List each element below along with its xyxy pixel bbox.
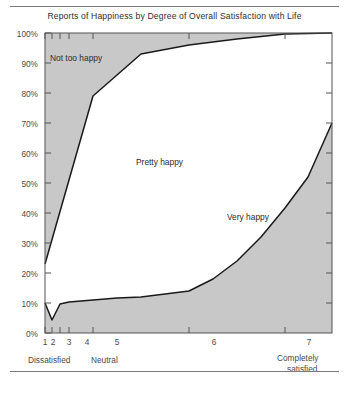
- bottom-divider-rule: [10, 371, 339, 372]
- band-label-not-too-happy: Not too happy: [50, 53, 102, 63]
- x-caption-satisfied: satisfied: [287, 364, 317, 374]
- y-tick-label-40: 40%: [4, 209, 38, 219]
- area-very-happy: [45, 123, 332, 333]
- x-caption-completely: Completely: [277, 353, 319, 363]
- y-tick-label-80: 80%: [4, 89, 38, 99]
- y-tick-label-30: 30%: [4, 239, 38, 249]
- x-tick-label-4: 4: [77, 337, 97, 347]
- y-tick-label-100: 100%: [4, 29, 38, 39]
- y-tick-label-50: 50%: [4, 179, 38, 189]
- y-tick-label-0: 0%: [4, 329, 38, 339]
- x-caption-neutral: Neutral: [91, 355, 118, 365]
- chart-figure: Reports of Happiness by Degree of Overal…: [0, 0, 349, 394]
- y-tick-label-90: 90%: [4, 59, 38, 69]
- y-tick-label-70: 70%: [4, 119, 38, 129]
- x-tick-label-7: 7: [299, 337, 319, 347]
- band-label-very-happy: Very happy: [227, 212, 269, 222]
- x-tick-label-5: 5: [107, 337, 127, 347]
- x-caption-dissatisfied: Dissatisfied: [28, 355, 70, 365]
- y-tick-label-60: 60%: [4, 149, 38, 159]
- x-tick-label-6: 6: [204, 337, 224, 347]
- y-tick-label-10: 10%: [4, 299, 38, 309]
- x-tick-label-3: 3: [59, 337, 79, 347]
- y-tick-label-20: 20%: [4, 269, 38, 279]
- band-label-pretty-happy: Pretty happy: [136, 157, 183, 167]
